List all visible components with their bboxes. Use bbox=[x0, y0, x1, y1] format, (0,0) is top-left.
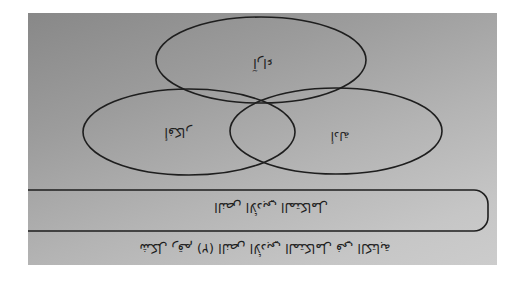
figure-caption: شكل رقم (٢) النص الأدبي المتكامل في الكت… bbox=[50, 242, 480, 255]
circle-right-label: أدلة bbox=[315, 130, 365, 142]
circle-top-label: آراء bbox=[233, 57, 293, 70]
circle-left-label: أفكار bbox=[148, 126, 208, 139]
summary-box-label: النص الأدبي المتكامل bbox=[146, 201, 396, 214]
diagram-photo: آراء أفكار أدلة النص الأدبي المتكامل شكل… bbox=[28, 13, 497, 265]
venn-diagram bbox=[28, 13, 497, 265]
